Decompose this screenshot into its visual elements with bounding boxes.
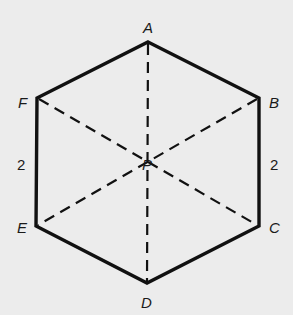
side-length-fe: 2 <box>17 156 25 173</box>
vertex-label-a: A <box>142 19 153 36</box>
hexagon-diagram: A B C D E F P 2 2 <box>0 0 293 315</box>
side-length-bc: 2 <box>270 156 278 173</box>
center-label-p: P <box>142 156 152 173</box>
vertex-label-c: C <box>269 219 280 236</box>
vertex-label-e: E <box>17 219 28 236</box>
vertex-label-f: F <box>18 94 28 111</box>
vertex-label-d: D <box>141 294 152 311</box>
hexagon-figure: A B C D E F P 2 2 <box>0 0 293 315</box>
vertex-label-b: B <box>269 94 279 111</box>
